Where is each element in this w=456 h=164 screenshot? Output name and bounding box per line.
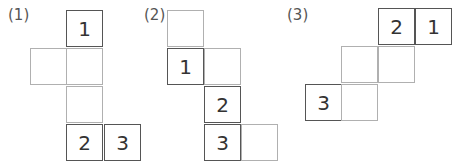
numbered-face: 3 [204, 124, 241, 161]
blank-face [204, 48, 241, 85]
numbered-face: 2 [378, 8, 415, 45]
numbered-face: 1 [167, 48, 204, 85]
numbered-face: 2 [204, 86, 241, 123]
blank-face [241, 124, 278, 161]
figure-label-3: (3) [287, 6, 308, 24]
numbered-face: 1 [415, 8, 452, 45]
blank-face [378, 46, 415, 83]
numbered-face: 1 [66, 10, 103, 47]
numbered-face: 2 [66, 124, 103, 161]
blank-face [66, 86, 103, 123]
blank-face [167, 10, 204, 47]
blank-face [30, 48, 67, 85]
figure-label-2: (2) [144, 6, 165, 24]
figure-label-1: (1) [8, 6, 29, 24]
blank-face [341, 84, 378, 121]
numbered-face: 3 [305, 84, 342, 121]
numbered-face: 3 [104, 124, 141, 161]
blank-face [66, 48, 103, 85]
blank-face [341, 46, 378, 83]
